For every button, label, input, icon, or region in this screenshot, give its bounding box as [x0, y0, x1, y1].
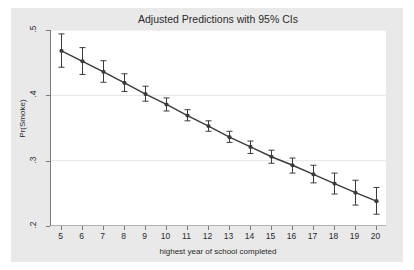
data-point [80, 59, 84, 63]
x-tick-label: 16 [282, 231, 302, 241]
x-tick-label: 10 [156, 231, 176, 241]
data-point [185, 113, 189, 117]
data-point [248, 145, 252, 149]
x-tick-mark [61, 226, 62, 230]
x-tick-mark [313, 226, 314, 230]
data-point [143, 92, 147, 96]
x-tick-mark [376, 226, 377, 230]
data-point [59, 49, 63, 53]
y-tick-mark [46, 30, 50, 31]
plot-area [50, 30, 386, 226]
y-tick-mark [46, 161, 50, 162]
x-tick-mark [103, 226, 104, 230]
x-tick-mark [229, 226, 230, 230]
data-point [206, 124, 210, 128]
plot-svg [51, 30, 387, 226]
x-tick-label: 9 [135, 231, 155, 241]
x-tick-mark [124, 226, 125, 230]
x-tick-label: 20 [366, 231, 386, 241]
x-tick-label: 5 [51, 231, 71, 241]
data-point [122, 81, 126, 85]
x-tick-label: 14 [240, 231, 260, 241]
data-point [164, 102, 168, 106]
x-tick-mark [292, 226, 293, 230]
x-tick-label: 17 [303, 231, 323, 241]
x-tick-label: 19 [345, 231, 365, 241]
x-tick-mark [145, 226, 146, 230]
y-tick-label: .5 [28, 18, 38, 40]
data-point [374, 199, 378, 203]
data-point [269, 155, 273, 159]
y-tick-mark [46, 226, 50, 227]
y-tick-label: .3 [28, 149, 38, 171]
x-tick-mark [187, 226, 188, 230]
x-tick-label: 15 [261, 231, 281, 241]
x-tick-label: 7 [93, 231, 113, 241]
y-tick-label: .2 [28, 214, 38, 236]
data-point [332, 181, 336, 185]
y-tick-mark [46, 95, 50, 96]
x-axis-label: highest year of school completed [50, 247, 386, 256]
data-point [227, 135, 231, 139]
x-tick-label: 8 [114, 231, 134, 241]
chart-title: Adjusted Predictions with 95% CIs [50, 13, 386, 25]
chart-figure: Adjusted Predictions with 95% CIs Pr(Smo… [11, 8, 403, 262]
x-tick-label: 6 [72, 231, 92, 241]
x-tick-label: 12 [198, 231, 218, 241]
y-axis-label: Pr(Smoke) [18, 74, 27, 164]
x-tick-mark [82, 226, 83, 230]
x-tick-label: 11 [177, 231, 197, 241]
x-tick-mark [250, 226, 251, 230]
x-tick-mark [271, 226, 272, 230]
data-point [101, 70, 105, 74]
x-tick-mark [355, 226, 356, 230]
prediction-line [62, 51, 377, 201]
x-tick-label: 13 [219, 231, 239, 241]
x-tick-mark [334, 226, 335, 230]
x-tick-label: 18 [324, 231, 344, 241]
y-tick-label: .4 [28, 83, 38, 105]
data-point [290, 163, 294, 167]
data-point [353, 191, 357, 195]
x-tick-mark [166, 226, 167, 230]
data-point [311, 172, 315, 176]
x-tick-mark [208, 226, 209, 230]
